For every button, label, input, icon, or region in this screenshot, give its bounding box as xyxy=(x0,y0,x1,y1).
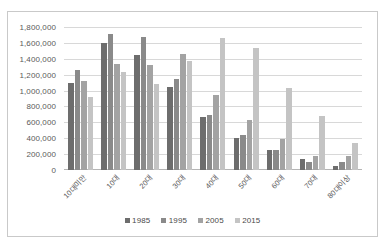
bar xyxy=(267,150,273,170)
bar-series-layer xyxy=(64,27,362,170)
legend-item[interactable]: 1985 xyxy=(125,216,151,225)
bar xyxy=(187,61,193,170)
bar xyxy=(81,81,87,170)
chart-container: 1,800,0001,600,0001,400,0001,200,0001,00… xyxy=(7,11,378,237)
bar-group xyxy=(329,27,362,170)
y-axis-tick-label: 1,400,000 xyxy=(20,54,57,63)
bar-group xyxy=(230,27,263,170)
bar xyxy=(75,70,81,170)
y-axis-tick-label: 600,000 xyxy=(26,118,56,127)
plot-area xyxy=(64,27,362,170)
bar xyxy=(68,83,74,170)
bar xyxy=(300,159,306,170)
y-axis-tick-label: 1,600,000 xyxy=(20,38,57,47)
y-axis-tick-label: 1,000,000 xyxy=(20,86,57,95)
bar xyxy=(147,65,153,170)
bar-group xyxy=(296,27,329,170)
bar-group xyxy=(130,27,163,170)
legend-swatch-icon xyxy=(198,218,203,223)
x-axis: 10대미만10대20대30대40대50대60대70대80대이상 xyxy=(64,170,362,218)
bar xyxy=(154,84,160,170)
bar xyxy=(213,95,219,170)
bar xyxy=(114,64,120,170)
legend-item[interactable]: 2015 xyxy=(235,216,261,225)
legend-label: 2005 xyxy=(206,216,224,225)
y-axis-tick-label: 800,000 xyxy=(26,102,56,111)
bar xyxy=(286,88,292,170)
bar-group xyxy=(163,27,196,170)
bar xyxy=(180,54,186,170)
bar xyxy=(121,72,127,170)
legend-swatch-icon xyxy=(125,218,130,223)
bar xyxy=(174,79,180,170)
bar xyxy=(247,120,253,170)
bar-group xyxy=(196,27,229,170)
legend-item[interactable]: 2005 xyxy=(198,216,224,225)
bar-group xyxy=(64,27,97,170)
bar xyxy=(253,48,259,170)
bar xyxy=(141,37,147,170)
bar xyxy=(339,162,345,170)
chart-legend: 1985199520052015 xyxy=(8,216,377,225)
bar-group xyxy=(263,27,296,170)
legend-label: 1985 xyxy=(132,216,150,225)
bar xyxy=(207,115,213,170)
bar xyxy=(234,138,240,170)
bar xyxy=(240,135,246,170)
bar xyxy=(108,34,114,170)
y-axis-tick-label: 1,200,000 xyxy=(20,70,57,79)
legend-swatch-icon xyxy=(161,218,166,223)
legend-item[interactable]: 1995 xyxy=(161,216,187,225)
bar xyxy=(273,150,279,170)
bar xyxy=(167,87,173,170)
y-axis-tick-label: 1,800,000 xyxy=(20,23,57,32)
y-axis-tick-label: 400,000 xyxy=(26,134,56,143)
y-axis-tick-label: 200,000 xyxy=(26,150,56,159)
y-axis-tick-label: 0 xyxy=(51,166,56,175)
bar xyxy=(306,162,312,170)
bar xyxy=(200,117,206,170)
legend-label: 1995 xyxy=(169,216,187,225)
bar xyxy=(220,38,226,170)
bar-group xyxy=(97,27,130,170)
legend-label: 2015 xyxy=(242,216,260,225)
y-axis: 1,800,0001,600,0001,400,0001,200,0001,00… xyxy=(8,27,60,170)
bar xyxy=(134,55,140,170)
legend-swatch-icon xyxy=(235,218,240,223)
